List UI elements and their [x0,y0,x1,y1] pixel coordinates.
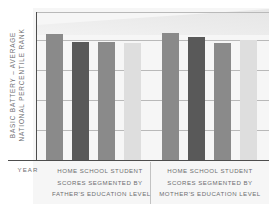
gridline-20 [36,130,269,131]
x-axis-line [8,160,269,161]
bar-8 [240,40,257,160]
bar-6 [188,37,205,160]
caption-line-2: SCORES SEGMENTED BY [52,177,148,189]
y-axis-line [36,12,37,161]
x-axis-caption-row: YEAR HOME SCHOOL STUDENTSCORES SEGMENTED… [0,163,271,213]
year-label: YEAR [6,166,50,173]
group-caption-father: HOME SCHOOL STUDENTSCORES SEGMENTED BYFA… [52,165,148,200]
bar-7 [214,43,231,160]
bar-chart-figure: BASIC BATTERY – AVERAGE NATIONAL PERCENT… [0,0,271,213]
gridline-60 [36,70,269,71]
gridline-80 [36,40,269,41]
bar-3 [98,42,115,160]
gridline-99 [36,12,269,13]
caption-line-3: MOTHER'S EDUCATION LEVEL [153,188,267,200]
bar-4 [124,43,141,160]
caption-line-3: FATHER'S EDUCATION LEVEL [52,188,148,200]
group-caption-mother: HOME SCHOOL STUDENTSCORES SEGMENTED BYMO… [153,165,267,200]
caption-line-2: SCORES SEGMENTED BY [153,177,267,189]
bar-2 [72,42,89,160]
bar-5 [162,33,179,160]
gridline-40 [36,100,269,101]
plot-area: 02040608099 [36,12,269,160]
y-axis-title-line-2: NATIONAL PERCENTILE RANK [17,10,26,160]
bar-1 [46,34,63,160]
caption-line-1: HOME SCHOOL STUDENT [153,165,267,177]
caption-line-1: HOME SCHOOL STUDENT [52,165,148,177]
y-axis-title: BASIC BATTERY – AVERAGE NATIONAL PERCENT… [0,10,34,160]
y-axis-title-line-1: BASIC BATTERY – AVERAGE [9,32,16,138]
